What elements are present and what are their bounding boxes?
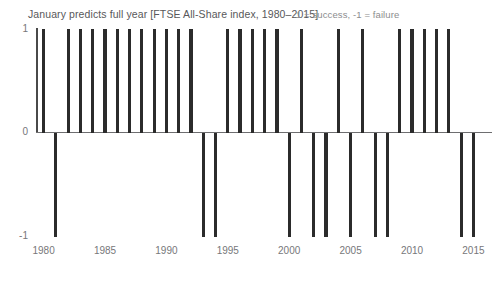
bar-1986 [116,29,119,133]
y-axis-tick-top: 1 [6,23,28,34]
bar-2010 [410,29,413,133]
x-axis-tick-2000: 2000 [278,245,300,256]
x-axis-tick-2015: 2015 [462,245,484,256]
bar-1982 [67,29,70,133]
bar-2014 [460,133,463,237]
bar-1992 [189,29,192,133]
y-axis-tick-zero: 0 [6,126,28,137]
x-axis-tick-1990: 1990 [155,245,177,256]
x-axis-tick-1980: 1980 [32,245,54,256]
x-axis-tick-2005: 2005 [339,245,361,256]
bar-1995 [226,29,229,133]
bar-1989 [153,29,156,133]
bar-2015 [472,133,475,237]
bar-1990 [165,29,168,133]
plot-area [36,28,492,239]
bar-2001 [300,29,303,133]
bar-1999 [275,29,278,133]
bar-2006 [361,29,364,133]
bar-1985 [103,29,106,133]
bar-1981 [54,133,57,237]
bar-2002 [312,133,315,237]
bar-1993 [202,133,205,237]
bar-2008 [386,133,389,237]
bar-2007 [374,133,377,237]
y-axis-line [36,28,38,133]
page-title: January predicts full year [FTSE All-Sha… [28,8,318,20]
x-axis-tick-1985: 1985 [94,245,116,256]
chart-page: January predicts full year [FTSE All-Sha… [0,0,497,281]
bar-2012 [435,29,438,133]
bar-2013 [447,29,450,133]
bar-1998 [263,29,266,133]
bar-2009 [398,29,401,133]
bar-1994 [214,133,217,237]
bar-1991 [177,29,180,133]
bar-2004 [337,29,340,133]
bar-1988 [140,29,143,133]
bar-1996 [238,29,241,133]
bar-1980 [42,29,45,133]
bar-2003 [324,133,327,237]
bar-1987 [128,29,131,133]
x-axis-tick-2010: 2010 [401,245,423,256]
bar-2005 [349,133,352,237]
bar-2011 [423,29,426,133]
x-axis-tick-1995: 1995 [217,245,239,256]
y-axis-tick-bottom: -1 [6,230,28,241]
bar-1983 [79,29,82,133]
legend-note: 1 = success, -1 = failure [296,9,399,20]
bar-1997 [251,29,254,133]
bar-1984 [91,29,94,133]
bar-2000 [288,133,291,237]
